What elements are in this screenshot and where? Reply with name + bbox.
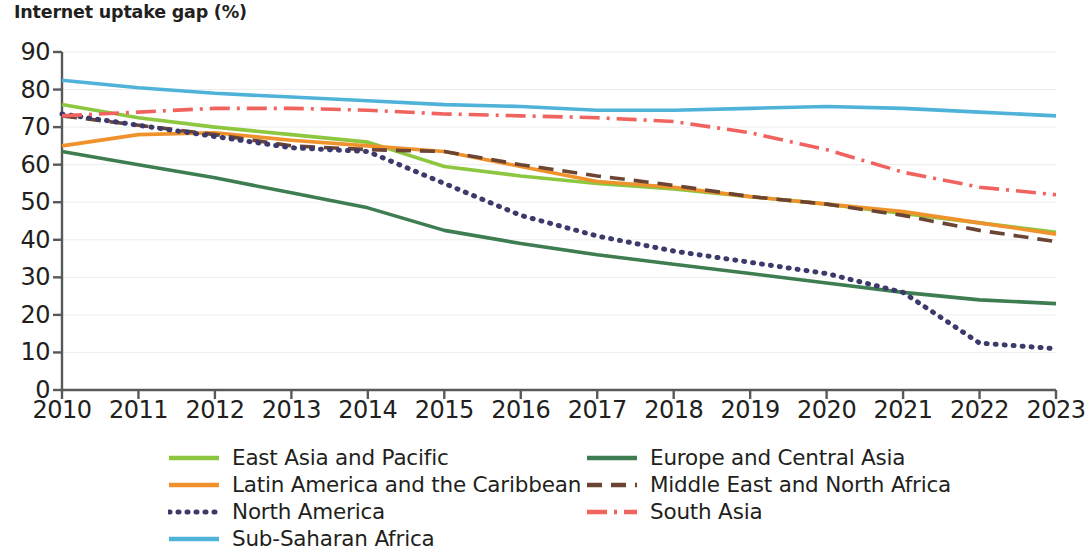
y-axis-tick-label: 70 xyxy=(0,113,50,141)
x-axis-tick-label: 2023 xyxy=(1026,396,1085,424)
legend-item[interactable]: Sub-Saharan Africa xyxy=(168,525,581,552)
plot-area: 0102030405060708090201020112012201320142… xyxy=(0,0,1079,440)
y-axis-tick-label: 60 xyxy=(0,151,50,179)
legend-swatch-dotted xyxy=(168,502,220,522)
x-axis-tick-label: 2017 xyxy=(568,396,627,424)
series-line xyxy=(62,108,1056,194)
legend-swatch-solid xyxy=(168,448,220,468)
y-axis-tick-label: 40 xyxy=(0,226,50,254)
plot-svg xyxy=(0,0,1079,440)
x-axis-tick-label: 2010 xyxy=(32,396,91,424)
x-axis-tick-label: 2020 xyxy=(797,396,856,424)
series-line xyxy=(62,80,1056,116)
legend-item[interactable]: Europe and Central Asia xyxy=(586,444,951,471)
legend-swatch-solid xyxy=(586,448,638,468)
y-axis-tick-label: 20 xyxy=(0,301,50,329)
legend-item[interactable]: Latin America and the Caribbean xyxy=(168,471,581,498)
legend-item-label: East Asia and Pacific xyxy=(232,447,449,469)
y-axis-tick-label: 10 xyxy=(0,338,50,366)
x-axis-tick-label: 2019 xyxy=(721,396,780,424)
series-line xyxy=(62,114,1056,349)
legend-item-label: Sub-Saharan Africa xyxy=(232,528,435,550)
legend-column-left: East Asia and PacificLatin America and t… xyxy=(168,444,581,552)
legend-item-label: Latin America and the Caribbean xyxy=(232,474,581,496)
legend-item-label: Middle East and North Africa xyxy=(650,474,951,496)
legend-item-label: Europe and Central Asia xyxy=(650,447,905,469)
legend-item[interactable]: Middle East and North Africa xyxy=(586,471,951,498)
legend-swatch-dashdot xyxy=(586,502,638,522)
y-axis-tick-label: 50 xyxy=(0,188,50,216)
y-axis-tick-label: 80 xyxy=(0,76,50,104)
x-axis-tick-label: 2014 xyxy=(338,396,397,424)
x-axis-tick-label: 2016 xyxy=(491,396,550,424)
chart-legend: East Asia and PacificLatin America and t… xyxy=(168,444,1068,554)
legend-swatch-solid xyxy=(168,529,220,549)
x-axis-tick-label: 2022 xyxy=(950,396,1009,424)
x-axis-tick-label: 2015 xyxy=(415,396,474,424)
legend-swatch-dashed xyxy=(586,475,638,495)
x-axis-tick-label: 2021 xyxy=(874,396,933,424)
legend-item-label: South Asia xyxy=(650,501,762,523)
x-axis-tick-label: 2013 xyxy=(262,396,321,424)
y-axis-tick-label: 90 xyxy=(0,38,50,66)
x-axis-tick-label: 2011 xyxy=(109,396,168,424)
x-axis-tick-label: 2012 xyxy=(185,396,244,424)
legend-item[interactable]: North America xyxy=(168,498,581,525)
legend-item[interactable]: South Asia xyxy=(586,498,951,525)
legend-swatch-solid xyxy=(168,475,220,495)
legend-item-label: North America xyxy=(232,501,385,523)
series-line xyxy=(62,133,1056,234)
legend-item[interactable]: East Asia and Pacific xyxy=(168,444,581,471)
y-axis-tick-label: 30 xyxy=(0,263,50,291)
legend-column-right: Europe and Central AsiaMiddle East and N… xyxy=(586,444,951,525)
x-axis-tick-label: 2018 xyxy=(644,396,703,424)
